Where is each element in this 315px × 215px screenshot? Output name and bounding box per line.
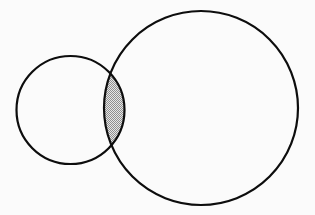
diagram-background: [0, 0, 315, 215]
venn-diagram-figure: Two overlapping circles Venn diagram: [0, 0, 315, 215]
venn-diagram-canvas: [0, 0, 315, 215]
